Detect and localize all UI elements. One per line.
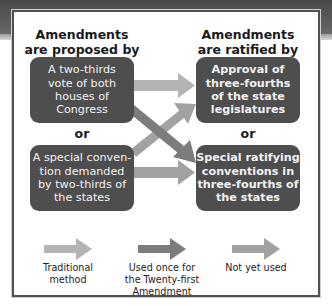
legend-arrow-not-yet-used	[232, 238, 280, 260]
proposal-box-congress: A two-thirds vote of both houses of Cong…	[30, 57, 134, 123]
arrow-congress-to-legislatures	[134, 73, 195, 98]
or-label-ratified: or	[196, 126, 300, 141]
legend-arrow-traditional	[44, 238, 92, 260]
ratification-box-conventions: Special ratifying conventions in three-f…	[196, 145, 300, 211]
legend-label-used-once: Used once for the Twenty-first Amendment	[112, 262, 212, 298]
ratification-box-legislatures: Approval of three-fourths of the state l…	[196, 57, 300, 123]
legend-label-traditional: Traditional method	[18, 262, 118, 286]
arrow-convention-to-conventions	[134, 160, 195, 185]
legend-label-not-yet-used: Not yet used	[206, 262, 306, 274]
or-label-proposed: or	[30, 126, 134, 141]
legend-arrow-used-once	[138, 238, 186, 260]
proposal-box-convention: A special conven- tion demanded by two-t…	[30, 145, 134, 211]
